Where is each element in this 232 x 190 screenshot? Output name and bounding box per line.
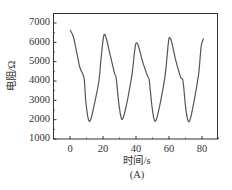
resistance-line [70,30,204,122]
x-tick-label: 20 [98,143,109,154]
y-axis-ticks: 1000200030004000500060007000 [29,16,57,143]
x-tick-label: 0 [67,143,72,154]
x-axis-label: 时间/s [123,154,150,166]
y-tick-label: 6000 [29,36,50,47]
figure-caption: (A) [130,169,145,181]
x-tick-label: 80 [197,143,208,154]
y-tick-label: 5000 [29,55,50,66]
y-tick-label: 2000 [29,113,50,124]
x-tick-label: 60 [164,143,175,154]
resistance-time-chart: 1000200030004000500060007000 020406080 电… [0,0,232,190]
y-tick-label: 3000 [29,94,50,105]
y-tick-label: 4000 [29,74,50,85]
y-tick-label: 7000 [29,16,50,27]
y-tick-label: 1000 [29,132,50,143]
y-axis-label: 电阻/Ω [5,60,17,91]
plot-frame [54,14,218,140]
x-tick-label: 40 [131,143,142,154]
